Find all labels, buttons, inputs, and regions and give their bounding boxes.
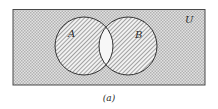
set-a-label: A: [67, 28, 75, 39]
venn-diagram: A B U (a): [0, 0, 218, 109]
set-b-label: B: [134, 29, 142, 40]
universe-label: U: [185, 14, 194, 25]
caption: (a): [103, 93, 116, 103]
